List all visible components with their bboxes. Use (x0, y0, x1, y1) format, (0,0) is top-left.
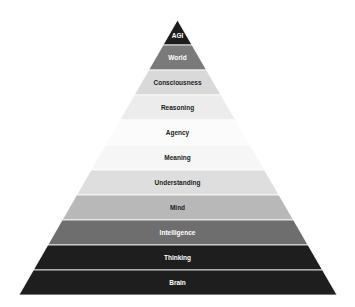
layer-label: World (168, 54, 186, 61)
layer-agi: AGI (163, 20, 192, 45)
layer-intelligence: Intelligence (48, 220, 308, 245)
layer-label: Meaning (164, 154, 190, 162)
pyramid-diagram: AGIWorldConsciousnessReasoningAgencyMean… (0, 0, 355, 307)
layer-label: Intelligence (160, 229, 196, 237)
layer-agency: Agency (105, 120, 250, 145)
layer-world: World (149, 45, 207, 70)
pyramid-svg: AGIWorldConsciousnessReasoningAgencyMean… (0, 0, 355, 307)
pyramid-layers: AGIWorldConsciousnessReasoningAgencyMean… (19, 20, 337, 295)
layer-mind: Mind (62, 195, 293, 220)
layer-label: Understanding (155, 179, 201, 187)
layer-label: Consciousness (153, 79, 201, 86)
layer-label: Brain (169, 279, 186, 286)
layer-reasoning: Reasoning (120, 95, 236, 120)
layer-label: Reasoning (161, 104, 194, 112)
layer-thinking: Thinking (33, 245, 322, 270)
layer-label: AGI (172, 32, 184, 39)
layer-meaning: Meaning (91, 145, 264, 170)
layer-consciousness: Consciousness (134, 70, 221, 95)
layer-label: Mind (170, 204, 185, 211)
layer-label: Agency (166, 129, 190, 137)
layer-understanding: Understanding (77, 170, 279, 195)
layer-brain: Brain (19, 270, 337, 295)
layer-label: Thinking (164, 254, 191, 262)
